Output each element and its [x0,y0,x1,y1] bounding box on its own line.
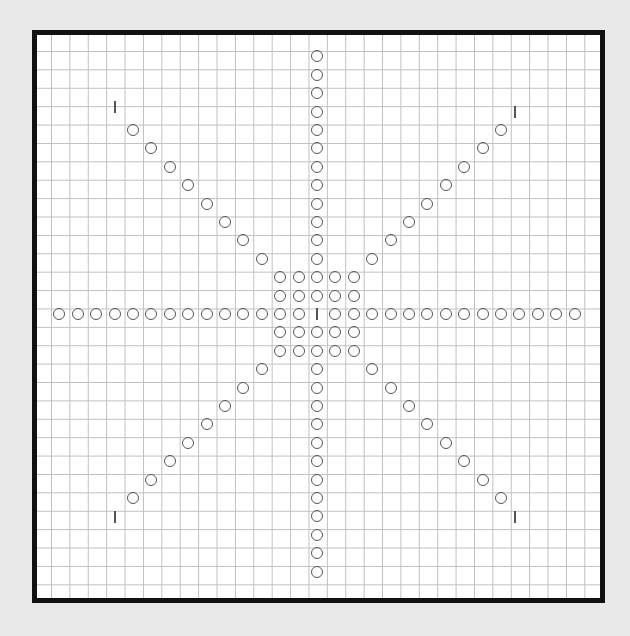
circle-symbol [477,474,489,486]
corner-marker [114,101,116,113]
circle-symbol [311,198,323,210]
circle-symbol [477,142,489,154]
circle-symbol [201,308,213,320]
circle-symbol [329,290,341,302]
circle-symbol [145,142,157,154]
circle-symbol [495,308,507,320]
circle-symbol [293,308,305,320]
circle-symbol [311,69,323,81]
circle-symbol [385,308,397,320]
circle-symbol [127,492,139,504]
circle-symbol [458,161,470,173]
circle-symbol [274,345,286,357]
circle-symbol [385,382,397,394]
circle-symbol [421,308,433,320]
circle-symbol [440,308,452,320]
circle-symbol [201,198,213,210]
circle-symbol [164,308,176,320]
circle-symbol [550,308,562,320]
circle-symbol [311,271,323,283]
circle-symbol [311,474,323,486]
circle-symbol [311,50,323,62]
circle-symbol [348,345,360,357]
circle-symbol [72,308,84,320]
circle-symbol [329,326,341,338]
circle-symbol [293,290,305,302]
circle-symbol [182,437,194,449]
circle-symbol [403,308,415,320]
circle-symbol [127,124,139,136]
circle-symbol [127,308,139,320]
circle-symbol [311,566,323,578]
corner-marker [114,511,116,523]
circle-symbol [348,308,360,320]
circle-symbol [329,345,341,357]
circle-symbol [311,234,323,246]
circle-symbol [90,308,102,320]
circle-symbol [458,455,470,467]
circle-symbol [182,308,194,320]
circle-symbol [311,253,323,265]
circle-symbol [311,326,323,338]
circle-symbol [311,161,323,173]
circle-symbol [256,363,268,375]
circle-symbol [311,400,323,412]
circle-symbol [329,271,341,283]
circle-symbol [348,290,360,302]
circle-symbol [311,124,323,136]
circle-symbol [256,253,268,265]
circle-symbol [403,400,415,412]
circle-symbol [329,308,341,320]
center-marker [316,308,318,320]
circle-symbol [311,510,323,522]
circle-symbol [274,271,286,283]
circle-symbol [219,400,231,412]
circle-symbol [532,308,544,320]
circle-symbol [201,418,213,430]
circle-symbol [237,308,249,320]
circle-symbol [53,308,65,320]
circle-symbol [293,326,305,338]
circle-symbol [311,106,323,118]
circle-symbol [311,437,323,449]
circle-symbol [109,308,121,320]
circle-symbol [145,474,157,486]
circle-symbol [274,290,286,302]
circle-symbol [569,308,581,320]
circle-symbol [477,308,489,320]
circle-symbol [182,179,194,191]
circle-symbol [237,234,249,246]
circle-symbol [164,455,176,467]
circle-symbol [237,382,249,394]
circle-symbol [311,382,323,394]
circle-symbol [311,216,323,228]
circle-symbol [385,234,397,246]
circle-symbol [274,326,286,338]
circle-symbol [293,345,305,357]
circle-symbol [311,492,323,504]
circle-symbol [311,418,323,430]
circle-symbol [366,363,378,375]
circle-symbol [311,363,323,375]
circle-symbol [421,418,433,430]
circle-symbol [421,198,433,210]
circle-symbol [458,308,470,320]
circle-symbol [256,308,268,320]
circle-symbol [311,455,323,467]
circle-symbol [311,345,323,357]
circle-symbol [311,547,323,559]
circle-symbol [495,492,507,504]
circle-symbol [348,326,360,338]
circle-symbol [164,161,176,173]
circle-symbol [145,308,157,320]
circle-symbol [311,142,323,154]
circle-symbol [440,437,452,449]
circle-symbol [348,271,360,283]
circle-symbol [366,308,378,320]
circle-symbol [495,124,507,136]
circle-symbol [274,308,286,320]
circle-symbol [311,87,323,99]
circle-symbol [513,308,525,320]
circle-symbol [311,529,323,541]
circle-symbol [440,179,452,191]
